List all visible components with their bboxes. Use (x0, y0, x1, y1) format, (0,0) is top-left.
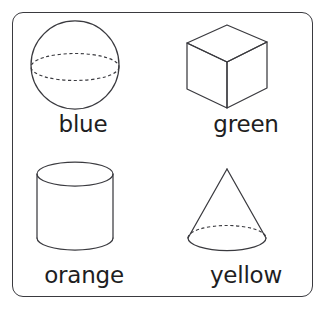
shape-cell-cylinder[interactable]: orange (13, 156, 163, 298)
cone-icon (164, 156, 314, 261)
shape-cell-cone[interactable]: yellow (164, 156, 314, 298)
sphere-figure (13, 13, 163, 118)
cylinder-icon (13, 156, 163, 261)
shape-label-sphere: blue (13, 109, 163, 139)
shape-label-cube: green (164, 109, 314, 139)
shape-label-cylinder: orange (13, 260, 163, 290)
cube-figure (164, 13, 314, 118)
sphere-icon (13, 13, 163, 118)
shape-label-cone: yellow (164, 260, 314, 290)
cone-figure (164, 156, 314, 261)
cube-icon (164, 13, 314, 118)
cylinder-figure (13, 156, 163, 261)
shapes-color-card: blue green (12, 12, 313, 297)
shape-cell-sphere[interactable]: blue (13, 13, 163, 155)
shape-cell-cube[interactable]: green (164, 13, 314, 155)
